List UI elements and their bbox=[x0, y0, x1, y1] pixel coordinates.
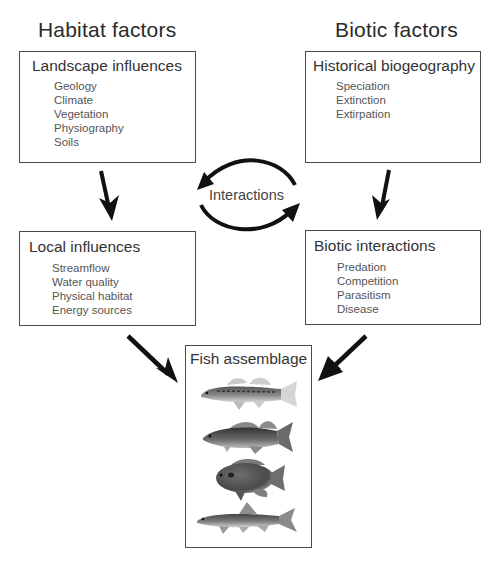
arrow-historical-to-biotic-icon bbox=[372, 170, 390, 220]
arrow-local-to-fish-icon bbox=[128, 336, 178, 383]
arrow-landscape-to-local-icon bbox=[99, 171, 119, 221]
sucker-fish-icon bbox=[195, 500, 301, 540]
interaction-cycle-bottom-arrow-icon bbox=[201, 203, 300, 229]
arrow-biotic-to-fish-icon bbox=[318, 336, 366, 381]
bass-fish-icon bbox=[201, 416, 297, 458]
interaction-cycle-top-arrow-icon bbox=[197, 160, 295, 190]
darter-fish-icon bbox=[197, 373, 301, 415]
